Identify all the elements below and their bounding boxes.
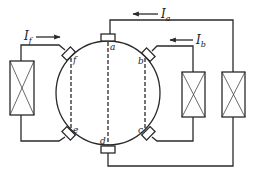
label-brush-b: b: [138, 56, 144, 66]
label-brush-f: f: [72, 55, 78, 65]
label-brush-c: c: [138, 125, 143, 135]
wire-f: [21, 45, 65, 61]
wire-e: [21, 115, 65, 141]
label-Ia: Ia: [160, 7, 171, 23]
brush-d: [101, 146, 115, 153]
wire-b: [152, 46, 193, 72]
machine-diagram: If Ia Ib a b c d e f: [0, 0, 256, 176]
winding-a-box: [222, 72, 245, 117]
field-winding-box: [10, 61, 34, 115]
label-brush-d: d: [100, 136, 106, 146]
label-brush-a: a: [110, 42, 115, 52]
label-If: If: [23, 29, 34, 45]
label-Ib: Ib: [195, 33, 206, 49]
winding-b-box: [182, 72, 205, 117]
brush-a: [101, 34, 115, 41]
wire-c: [152, 117, 193, 141]
label-brush-e: e: [73, 125, 78, 135]
